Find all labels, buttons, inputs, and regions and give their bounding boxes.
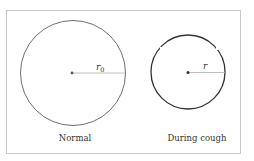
cough-circle-gap-left <box>160 47 162 50</box>
normal-center-dot <box>71 72 74 75</box>
cough-radius-label: r <box>203 61 208 71</box>
trachea-diagram: r0 Normal r During cough <box>0 0 254 161</box>
cough-caption: During cough <box>168 133 227 143</box>
cough-circle-gap-right <box>216 47 218 50</box>
normal-caption: Normal <box>59 133 92 143</box>
cough-center-dot <box>187 71 190 74</box>
diagram-canvas: r0 Normal r During cough <box>0 0 254 161</box>
